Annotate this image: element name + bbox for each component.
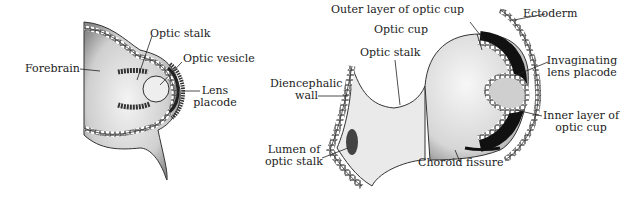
label-invaginating-lens-placode: Invaginating lens placode — [546, 55, 618, 79]
label-ectoderm: Ectoderm — [523, 8, 577, 20]
label-diencephalic-wall: Diencephalic wall — [270, 78, 342, 102]
label-inner-layer-line2: optic cup — [542, 122, 620, 134]
label-choroid-fissure: Choroid fissure — [418, 157, 504, 169]
label-optic-vesicle: Optic vesicle — [183, 53, 255, 65]
label-diencephalic-line2: wall — [270, 90, 342, 102]
label-invaginating-line2: lens placode — [546, 67, 618, 79]
eye-development-diagram: Forebrain Optic stalk Optic vesicle Lens… — [0, 0, 635, 200]
label-lumen-line2: optic stalk — [264, 156, 324, 168]
label-forebrain: Forebrain — [25, 63, 80, 75]
label-lens-placode-line2: placode — [190, 97, 240, 109]
label-optic-stalk-left: Optic stalk — [150, 28, 210, 40]
label-lens-placode: Lens placode — [190, 85, 240, 109]
label-optic-cup: Optic cup — [374, 24, 428, 36]
label-outer-layer-optic-cup: Outer layer of optic cup — [331, 4, 464, 16]
label-optic-stalk-right: Optic stalk — [360, 47, 420, 59]
label-lumen-optic-stalk: Lumen of optic stalk — [264, 144, 324, 168]
label-inner-layer-optic-cup: Inner layer of optic cup — [542, 110, 620, 134]
left-embryo-section — [80, 22, 200, 180]
